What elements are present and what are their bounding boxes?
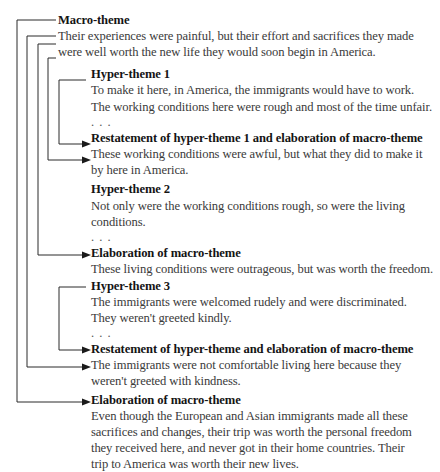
elaboration-2-text-line: Even though the European and Asian immig…: [91, 408, 408, 424]
restatement-2-text-line: The immigrants were not comfortable livi…: [91, 357, 401, 373]
elaboration-2-text-line: sacrifices and changes, their trip was w…: [91, 424, 412, 440]
elaboration-1-text-line: These living conditions were outrageous,…: [91, 261, 433, 277]
hyper-theme-2-text-line: Not only were the working conditions rou…: [91, 198, 405, 214]
arrowhead-icon: [82, 252, 91, 259]
hyper-theme-1-heading: Hyper-theme 1: [91, 66, 170, 82]
hyper-theme-3-text-line: The immigrants were welcomed rudely and …: [91, 294, 407, 310]
bracket-macro-to-elaboration-1: [38, 44, 84, 255]
macro-theme-heading: Macro-theme: [58, 12, 129, 28]
macro-theme-text-line: Their experiences were painful, but thei…: [58, 28, 414, 44]
bracket-hyper-1-to-restatement-1: [59, 80, 86, 144]
hyper-theme-2-heading: Hyper-theme 2: [91, 181, 170, 197]
arrowhead-icon: [82, 141, 91, 148]
restatement-1-text-line: by here in America.: [91, 162, 188, 178]
bracket-macro-line2-to-restatement-1-text: [48, 58, 84, 160]
restatement-1-text-line: These working conditions were awful, but…: [91, 146, 422, 162]
restatement-1-heading: Restatement of hyper-theme 1 and elabora…: [91, 130, 423, 146]
arrowhead-icon: [82, 157, 91, 164]
restatement-2-heading: Restatement of hyper-theme and elaborati…: [91, 341, 413, 357]
hyper-theme-1-text-line: The working conditions here were rough a…: [91, 99, 432, 115]
arrowhead-icon: [82, 364, 91, 371]
hyper-theme-3-text-line: They weren't greeted kindly.: [91, 310, 232, 326]
hyper-theme-2-text-line: conditions.: [91, 214, 146, 230]
elaboration-2-text-line: they received here, and never got in the…: [91, 440, 405, 456]
elaboration-1-heading: Elaboration of macro-theme: [91, 245, 241, 261]
macro-theme-text-line: were well worth the new life they would …: [58, 44, 376, 60]
restatement-2-text-line: weren't greeted with kindness.: [91, 373, 241, 389]
ellipsis: . . .: [91, 114, 112, 130]
elaboration-2-text-line: trip to America was worth their new live…: [91, 456, 299, 472]
arrowhead-icon: [82, 347, 91, 354]
elaboration-2-heading: Elaboration of macro-theme: [91, 392, 241, 408]
ellipsis: . . .: [91, 229, 112, 245]
hyper-theme-3-heading: Hyper-theme 3: [91, 278, 170, 294]
bracket-hyper-3-to-restatement-2: [59, 287, 86, 350]
hyper-theme-1-text-line: To make it here, in America, the immigra…: [91, 82, 414, 98]
bracket-macro-line1-to-restatement-2-text: [27, 36, 84, 367]
arrowhead-icon: [82, 399, 91, 406]
ellipsis: . . .: [91, 325, 112, 341]
